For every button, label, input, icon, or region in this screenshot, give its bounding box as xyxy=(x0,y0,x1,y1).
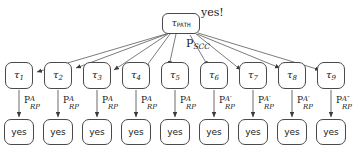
node-yes-4[interactable]: yes xyxy=(121,119,151,145)
node-tau-9-label: τ9 xyxy=(326,70,336,82)
node-yes-7[interactable]: yes xyxy=(238,119,268,145)
edge-label-rp-5: PARP xyxy=(180,96,186,105)
node-tau-3-label: τ3 xyxy=(92,70,102,82)
node-tau-9[interactable]: τ9 xyxy=(317,62,345,89)
node-yes-8-label: yes xyxy=(284,127,300,137)
node-tau-8[interactable]: τ8 xyxy=(278,62,306,89)
edge-label-rp-2: PARP xyxy=(63,96,69,105)
edge-label-rp-7: PA′RP xyxy=(258,96,264,105)
node-yes-4-label: yes xyxy=(128,127,144,137)
edge-label-rp-1: PARP xyxy=(24,96,30,105)
node-tau-6[interactable]: τ6 xyxy=(200,62,228,89)
node-yes-1-label: yes xyxy=(11,127,27,137)
node-yes-8[interactable]: yes xyxy=(277,119,307,145)
node-tau-3[interactable]: τ3 xyxy=(83,62,111,89)
root-annotation-yes: yes! xyxy=(201,7,224,18)
edge-label-rp-6: PA′RP xyxy=(219,96,225,105)
node-yes-5[interactable]: yes xyxy=(160,119,190,145)
node-tau-7[interactable]: τ7 xyxy=(239,62,267,89)
node-tau-path[interactable]: τPATH xyxy=(162,13,200,34)
node-yes-3-label: yes xyxy=(89,127,105,137)
node-yes-6-label: yes xyxy=(206,127,222,137)
node-tau-2-label: τ2 xyxy=(53,70,63,82)
node-tau-1[interactable]: τ1 xyxy=(5,62,33,89)
node-tau-7-label: τ7 xyxy=(248,70,258,82)
node-tau-2[interactable]: τ2 xyxy=(44,62,72,89)
edge-label-pscc: PSCC xyxy=(186,38,210,50)
node-yes-5-label: yes xyxy=(167,127,183,137)
node-yes-7-label: yes xyxy=(245,127,261,137)
node-yes-6[interactable]: yes xyxy=(199,119,229,145)
node-tau-1-label: τ1 xyxy=(14,70,24,82)
node-tau-4[interactable]: τ4 xyxy=(122,62,150,89)
node-tau-4-label: τ4 xyxy=(131,70,141,82)
edge-label-rp-8: PA′RP xyxy=(297,96,303,105)
node-tau-5-label: τ5 xyxy=(170,70,180,82)
node-yes-3[interactable]: yes xyxy=(82,119,112,145)
node-yes-2-label: yes xyxy=(50,127,66,137)
node-yes-9-label: yes xyxy=(323,127,339,137)
node-yes-2[interactable]: yes xyxy=(43,119,73,145)
node-tau-6-label: τ6 xyxy=(209,70,219,82)
node-tau-8-label: τ8 xyxy=(287,70,297,82)
node-tau-path-label: τPATH xyxy=(172,19,191,28)
edge-label-rp-9: PA″RP xyxy=(336,96,342,105)
node-yes-9[interactable]: yes xyxy=(316,119,346,145)
node-yes-1[interactable]: yes xyxy=(4,119,34,145)
edge-label-rp-4: PARP xyxy=(141,96,147,105)
proof-tree-diagram: τPATH yes! PSCC τ1 τ2 τ3 τ4 τ5 τ6 τ7 τ8 … xyxy=(0,0,361,157)
edge-label-rp-3: PARP xyxy=(102,96,108,105)
node-tau-5[interactable]: τ5 xyxy=(161,62,189,89)
